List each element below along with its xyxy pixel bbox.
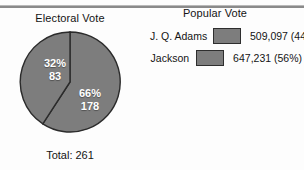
pie-label-jackson-value: 178 [67, 100, 113, 113]
popular-row-name-jackson: Jackson [150, 52, 196, 64]
color-swatch-adams [213, 28, 241, 44]
electoral-vote-total: Total: 261 [13, 149, 127, 162]
popular-vote-title: Popular Vote [160, 7, 270, 20]
electoral-vote-pie-chart: 32% 83 66% 178 [19, 31, 121, 133]
pie-label-adams-percent: 32% [35, 57, 75, 70]
popular-vote-table: J. Q. Adams 509,097 (44%) Jackson 647,23… [150, 25, 302, 69]
popular-row-value-jackson: 647,231 (56%) [224, 52, 302, 64]
pie-label-jackson-percent: 66% [67, 87, 113, 100]
pie-label-jackson: 66% 178 [67, 87, 113, 113]
popular-row-name-adams: J. Q. Adams [150, 30, 213, 42]
popular-row-value-adams: 509,097 (44%) [241, 30, 304, 42]
election-results-figure: Electoral Vote 32% 83 66% 178 Total: 261… [0, 0, 304, 170]
electoral-vote-title: Electoral Vote [13, 12, 127, 25]
table-row: J. Q. Adams 509,097 (44%) [150, 25, 302, 46]
color-swatch-jackson [196, 50, 224, 66]
pie-label-adams-value: 83 [35, 70, 75, 83]
table-row: Jackson 647,231 (56%) [150, 47, 302, 68]
pie-label-adams: 32% 83 [35, 57, 75, 83]
